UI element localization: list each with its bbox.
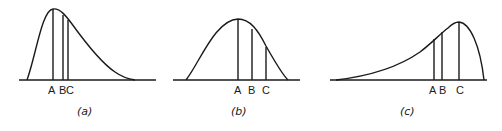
panel-a-label-A: A — [48, 84, 56, 96]
panel-a: A B C (a) — [19, 9, 156, 118]
panel-a-caption: (a) — [77, 105, 92, 118]
panel-c: A B C (c) — [330, 22, 487, 118]
panel-a-label-C: C — [66, 84, 74, 96]
panel-c-label-C: C — [456, 84, 464, 96]
panel-c-label-B: B — [439, 84, 446, 96]
panel-b-label-B: B — [248, 84, 255, 96]
distribution-diagrams: A B C (a) A B C (b) A B C (c) — [0, 0, 502, 131]
panel-b-label-C: C — [262, 84, 270, 96]
panel-b-label-A: A — [234, 84, 242, 96]
panel-b-caption: (b) — [231, 105, 247, 118]
panel-c-label-A: A — [429, 84, 437, 96]
panel-b-curve — [186, 19, 288, 80]
panel-c-curve — [336, 22, 484, 80]
panel-c-caption: (c) — [400, 105, 415, 118]
panel-a-curve — [27, 9, 135, 80]
panel-b: A B C (b) — [173, 19, 300, 118]
